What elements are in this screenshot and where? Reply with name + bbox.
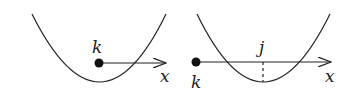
right-x-label: x bbox=[325, 66, 335, 86]
j-label: j bbox=[255, 37, 265, 57]
diagram: k x j k x bbox=[0, 0, 362, 101]
diagram-canvas: k x j k x bbox=[0, 0, 362, 101]
left-k-label: k bbox=[92, 37, 102, 57]
left-panel: k x bbox=[32, 14, 170, 86]
left-x-label: x bbox=[160, 66, 170, 86]
right-k-label: k bbox=[191, 72, 201, 92]
right-panel: j k x bbox=[191, 14, 335, 92]
left-point-k bbox=[95, 59, 104, 68]
right-point-k bbox=[192, 58, 201, 67]
